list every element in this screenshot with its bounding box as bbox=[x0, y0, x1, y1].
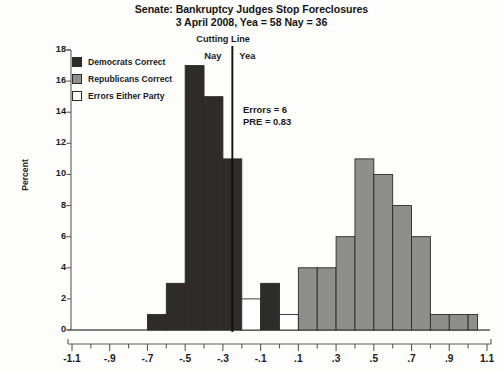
statistics-annotation: Errors = 6 PRE = 0.83 bbox=[243, 104, 291, 128]
histogram-bar-8 bbox=[280, 314, 299, 330]
y-axis-tick-label: 2 bbox=[40, 293, 66, 303]
legend-swatch-icon bbox=[72, 57, 82, 67]
legend-item-1: Republicans Correct bbox=[72, 71, 172, 87]
histogram-bar-6 bbox=[242, 299, 261, 330]
y-axis-tick-label: 18 bbox=[40, 44, 66, 54]
legend-item-label: Republicans Correct bbox=[88, 74, 172, 84]
nay-label: Nay bbox=[204, 50, 221, 61]
yea-label: Yea bbox=[239, 50, 255, 61]
histogram-bars bbox=[147, 66, 477, 330]
y-axis-tick-label: 4 bbox=[40, 262, 66, 272]
histogram-bar-3 bbox=[204, 97, 223, 330]
histogram-bar-16 bbox=[430, 314, 449, 330]
legend-item-0: Democrats Correct bbox=[72, 54, 172, 70]
legend-swatch-icon bbox=[72, 91, 82, 101]
x-axis-tick-label: 1.1 bbox=[465, 353, 503, 364]
histogram-bar-4 bbox=[223, 159, 232, 330]
histogram-bar-2 bbox=[185, 66, 204, 330]
y-axis-tick-label: 16 bbox=[40, 75, 66, 85]
chart-legend: Democrats CorrectRepublicans CorrectErro… bbox=[72, 54, 172, 105]
y-axis-tick-label: 12 bbox=[40, 137, 66, 147]
histogram-bar-18 bbox=[468, 314, 477, 330]
histogram-bar-13 bbox=[374, 174, 393, 330]
legend-item-2: Errors Either Party bbox=[72, 88, 172, 104]
histogram-bar-0 bbox=[147, 314, 166, 330]
errors-stat: Errors = 6 bbox=[243, 104, 291, 116]
legend-swatch-icon bbox=[72, 74, 82, 84]
histogram-bar-7 bbox=[261, 283, 280, 330]
y-axis-tick-label: 6 bbox=[40, 231, 66, 241]
legend-item-label: Errors Either Party bbox=[88, 91, 164, 101]
histogram-bar-11 bbox=[336, 237, 355, 330]
y-axis-tick-label: 14 bbox=[40, 106, 66, 116]
y-axis-tick-label: 0 bbox=[40, 324, 66, 334]
cutting-line-label: Cutting Line bbox=[196, 34, 250, 44]
pre-stat: PRE = 0.83 bbox=[243, 116, 291, 128]
histogram-bar-1 bbox=[166, 283, 185, 330]
histogram-bar-12 bbox=[355, 159, 374, 330]
y-axis-tick-label: 8 bbox=[40, 200, 66, 210]
chart-figure: Senate: Bankruptcy Judges Stop Foreclosu… bbox=[0, 0, 503, 373]
legend-item-label: Democrats Correct bbox=[88, 57, 165, 67]
histogram-bar-15 bbox=[412, 237, 431, 330]
y-axis-tick-label: 10 bbox=[40, 168, 66, 178]
histogram-bar-9 bbox=[298, 268, 317, 330]
histogram-bar-10 bbox=[317, 268, 336, 330]
histogram-bar-14 bbox=[393, 206, 412, 330]
histogram-bar-5 bbox=[232, 159, 241, 330]
histogram-bar-17 bbox=[449, 314, 468, 330]
